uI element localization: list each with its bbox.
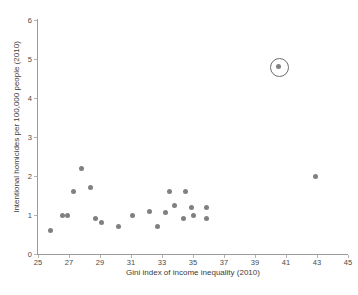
x-tick-mark xyxy=(224,255,225,258)
x-tick-label: 27 xyxy=(58,258,80,267)
y-tick-mark xyxy=(34,176,37,177)
y-tick-mark xyxy=(34,59,37,60)
x-tick-label: 35 xyxy=(182,258,204,267)
x-tick-label: 43 xyxy=(306,258,328,267)
data-point xyxy=(48,228,53,233)
x-tick-label: 31 xyxy=(120,258,142,267)
scatter-chart: 0123456 2527293133353739414345 Gini inde… xyxy=(0,0,358,295)
data-point xyxy=(79,166,84,171)
x-tick-label: 33 xyxy=(151,258,173,267)
data-point xyxy=(99,220,104,225)
data-point xyxy=(313,174,318,179)
data-point xyxy=(191,213,196,218)
x-tick-mark xyxy=(317,255,318,258)
data-point xyxy=(181,216,186,221)
data-point xyxy=(172,203,177,208)
data-point xyxy=(167,189,172,194)
x-tick-mark xyxy=(255,255,256,258)
x-tick-mark xyxy=(100,255,101,258)
x-tick-mark xyxy=(38,255,39,258)
data-point xyxy=(204,205,209,210)
y-tick-mark xyxy=(34,137,37,138)
x-tick-mark xyxy=(69,255,70,258)
y-tick-mark xyxy=(34,254,37,255)
x-tick-label: 25 xyxy=(27,258,49,267)
data-point xyxy=(93,216,98,221)
data-point xyxy=(130,213,135,218)
data-point xyxy=(88,185,93,190)
x-tick-mark xyxy=(193,255,194,258)
data-point xyxy=(189,205,194,210)
data-point xyxy=(116,224,121,229)
y-tick-mark xyxy=(34,20,37,21)
x-tick-mark xyxy=(348,255,349,258)
y-tick-mark xyxy=(34,98,37,99)
x-tick-mark xyxy=(286,255,287,258)
y-tick-mark xyxy=(34,215,37,216)
x-tick-mark xyxy=(162,255,163,258)
x-tick-label: 29 xyxy=(89,258,111,267)
x-tick-mark xyxy=(131,255,132,258)
x-axis-title: Gini index of income inequality (2010) xyxy=(38,268,348,278)
x-tick-label: 41 xyxy=(275,258,297,267)
data-point xyxy=(183,189,188,194)
data-point xyxy=(65,213,70,218)
x-tick-label: 45 xyxy=(337,258,358,267)
x-tick-label: 39 xyxy=(244,258,266,267)
y-axis-title: Intentional homicides per 100,000 people… xyxy=(12,22,22,232)
plot-area xyxy=(38,20,348,254)
data-point xyxy=(204,216,209,221)
data-point xyxy=(71,189,76,194)
data-point xyxy=(163,210,168,215)
x-tick-label: 37 xyxy=(213,258,235,267)
data-point xyxy=(155,224,160,229)
data-point xyxy=(147,209,152,214)
